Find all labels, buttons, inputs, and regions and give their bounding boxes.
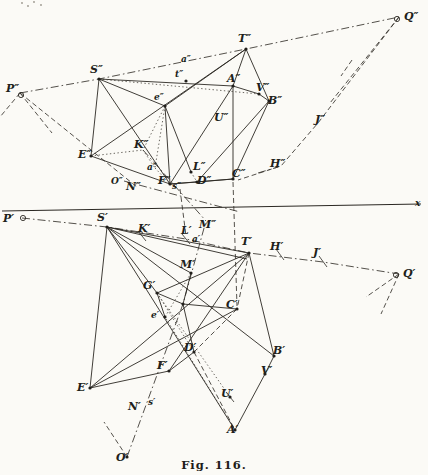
point-label-D1: D′ xyxy=(183,341,197,354)
construction-line-solid xyxy=(90,371,169,388)
print-speck xyxy=(33,1,35,3)
construction-line-dotted xyxy=(165,273,191,317)
point-label-V1: V′ xyxy=(261,364,273,377)
ground-line-axis xyxy=(2,204,421,211)
point-label-Q2: Q″ xyxy=(404,10,419,23)
point-label-C1: C′ xyxy=(226,298,238,311)
vertex-point xyxy=(189,271,192,274)
construction-line-dashed xyxy=(233,182,237,306)
vertex-point xyxy=(167,369,170,372)
point-label-s2: s″ xyxy=(172,181,181,191)
print-speck xyxy=(27,5,29,7)
point-label-F1: F′ xyxy=(156,359,168,372)
construction-line-solid xyxy=(90,309,237,388)
point-label-e1: e′ xyxy=(151,310,160,320)
point-label-A1: A′ xyxy=(226,423,239,436)
point-label-A2: A″ xyxy=(226,72,241,85)
construction-line-solid xyxy=(107,227,249,253)
point-label-K2: K″ xyxy=(133,138,149,151)
point-label-B1: B′ xyxy=(272,344,285,357)
point-label-U1: U′ xyxy=(221,387,234,400)
point-label-a1: a′ xyxy=(192,234,201,244)
construction-line-solid xyxy=(235,374,265,430)
construction-line-dotted xyxy=(165,317,235,430)
point-label-T1: T′ xyxy=(241,235,252,248)
vertex-point xyxy=(105,225,108,228)
point-label-Q1: Q′ xyxy=(403,267,416,280)
construction-line-solid xyxy=(90,227,107,388)
point-label-t2: t″ xyxy=(175,69,183,79)
point-label-U2: U″ xyxy=(214,111,229,124)
vertex-point xyxy=(181,302,184,305)
construction-line-dashed xyxy=(20,93,137,187)
point-label-G1: G′ xyxy=(143,279,155,292)
point-label-S1: S′ xyxy=(97,211,108,224)
construction-line-solid xyxy=(249,253,274,356)
point-label-T2: T″ xyxy=(238,32,251,45)
construction-line-dashed xyxy=(341,60,352,76)
point-label-B2: B″ xyxy=(267,94,282,107)
vertex-point xyxy=(97,77,100,80)
print-speck xyxy=(21,2,23,4)
construction-line-dashed xyxy=(0,93,20,117)
construction-line-dashed xyxy=(238,17,399,180)
point-label-M1: M′ xyxy=(179,258,195,271)
construction-line-solid xyxy=(157,293,183,304)
point-label-L1: L′ xyxy=(180,224,192,237)
point-label-H1: H′ xyxy=(269,240,283,253)
construction-line-dashed xyxy=(194,309,237,352)
point-label-P2: P″ xyxy=(5,82,19,95)
point-label-N2: N″ xyxy=(125,180,141,193)
point-label-V2: V″ xyxy=(256,81,270,94)
vertex-point xyxy=(247,251,250,254)
point-label-N1: N′ xyxy=(127,400,141,413)
vertex-point xyxy=(184,79,187,82)
construction-line-solid xyxy=(91,79,99,156)
construction-line-solid xyxy=(183,273,191,304)
figure-caption: Fig. 116. xyxy=(0,458,428,472)
point-label-J2: J″ xyxy=(313,113,325,126)
vertex-point xyxy=(88,386,91,389)
construction-line-solid xyxy=(107,227,235,430)
construction-line-dotted xyxy=(155,106,165,168)
point-label-K1: K′ xyxy=(137,222,151,235)
projection-drawing: P″S″a″T″Q″t″A″V″B″e″U″J″H″K″a″L″F″s″D″C″… xyxy=(0,0,428,475)
point-label-P1: P′ xyxy=(2,212,14,225)
point-label-a2-pt: a″ xyxy=(147,162,157,172)
point-label-E1: E′ xyxy=(76,381,88,394)
vertex-point xyxy=(163,104,166,107)
print-speck xyxy=(40,4,42,6)
construction-line-dashed xyxy=(20,93,52,133)
construction-line-dashdot xyxy=(20,17,399,93)
point-label-x-axis: x xyxy=(414,198,421,208)
construction-line-solid xyxy=(99,79,233,86)
point-label-M2: M″ xyxy=(198,218,216,231)
point-label-e2: e″ xyxy=(154,92,164,102)
vertex-point xyxy=(244,47,247,50)
construction-line-dashdot xyxy=(127,221,206,457)
point-label-O2: O″ xyxy=(111,176,123,186)
point-label-E2: E″ xyxy=(77,148,91,161)
point-label-a2-line: a″ xyxy=(181,54,191,64)
point-label-H2: H″ xyxy=(269,157,285,170)
point-label-S2: S″ xyxy=(90,63,103,76)
construction-line-solid xyxy=(169,352,194,371)
point-label-D2: D″ xyxy=(196,174,212,187)
point-label-J1: J′ xyxy=(311,246,321,259)
figure-116-diagram: P″S″a″T″Q″t″A″V″B″e″U″J″H″K″a″L″F″s″D″C″… xyxy=(0,0,428,475)
vertex-point xyxy=(155,291,158,294)
point-label-s1: s′ xyxy=(148,397,156,407)
point-label-C2: C″ xyxy=(232,167,246,180)
point-label-L2: L″ xyxy=(192,160,206,173)
point-label-F2: F″ xyxy=(157,174,171,187)
construction-line-dashed xyxy=(330,17,399,103)
vertex-point xyxy=(163,315,166,318)
